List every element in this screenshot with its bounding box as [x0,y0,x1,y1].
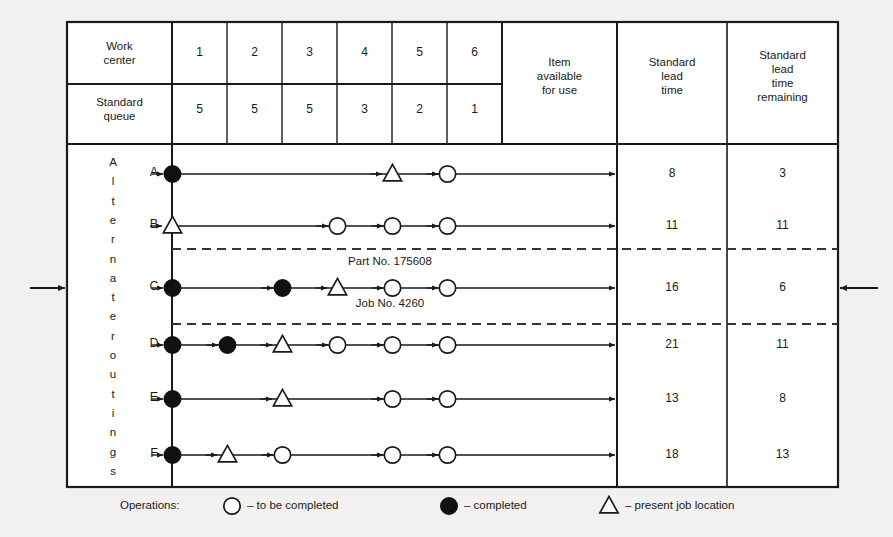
side-label-letter: t [106,291,120,303]
legend-label-2: – present job location [625,499,825,513]
header-work-center-4: 4 [337,46,392,60]
side-label-letter: e [106,310,120,322]
routing-label-A: A [146,166,162,180]
side-label-letter: o [106,349,120,361]
standard-lead-time-C: 16 [617,281,727,295]
standard-lead-time-remaining-D: 11 [727,338,838,352]
side-label-letter: r [106,233,120,245]
header-work-center-label: Workcenter [67,39,172,67]
standard-lead-time-remaining-A: 3 [727,167,838,181]
header-standard-lead-time: Standardleadtime [617,55,727,97]
side-label-letter: r [106,330,120,342]
header-work-center-5: 5 [392,46,447,60]
standard-lead-time-remaining-E: 8 [727,392,838,406]
legend-open-circle-icon [224,498,240,514]
side-label-letter: A [106,156,120,168]
standard-lead-time-remaining-C: 6 [727,281,838,295]
routing-label-F: F [146,447,162,461]
side-label-letter: n [106,426,120,438]
legend-label-0: – to be completed [247,499,447,513]
header-work-center-2: 2 [227,46,282,60]
side-label-letter: n [106,253,120,265]
standard-lead-time-B: 11 [617,219,727,233]
side-label-letter: g [106,446,120,458]
header-standard-queue-3: 5 [282,103,337,117]
header-standard-queue-label: Standardqueue [67,95,172,123]
routing-label-D: D [146,337,162,351]
header-standard-lead-time-remaining: Standardleadtimeremaining [727,48,838,104]
side-label-letter: t [106,388,120,400]
header-item-available: Itemavailablefor use [502,55,617,97]
header-standard-queue-1: 5 [172,103,227,117]
figure-canvas: WorkcenterStandardqueue123456555321Itema… [0,0,893,537]
legend-title: Operations: [120,499,210,513]
side-label-letter: a [106,272,120,284]
routing-label-C: C [146,280,162,294]
header-standard-queue-4: 3 [337,103,392,117]
routing-label-E: E [146,391,162,405]
header-standard-queue-2: 5 [227,103,282,117]
routing-label-B: B [146,218,162,232]
side-label-letter: s [106,465,120,477]
job-number-label: Job No. 4260 [290,297,490,311]
side-label-letter: e [106,214,120,226]
header-standard-queue-6: 1 [447,103,502,117]
header-work-center-3: 3 [282,46,337,60]
standard-lead-time-remaining-F: 13 [727,448,838,462]
standard-lead-time-D: 21 [617,338,727,352]
standard-lead-time-A: 8 [617,167,727,181]
side-label-letter: t [106,195,120,207]
standard-lead-time-F: 18 [617,448,727,462]
side-label-letter: l [106,175,120,187]
header-work-center-1: 1 [172,46,227,60]
part-number-label: Part No. 175608 [290,255,490,269]
header-work-center-6: 6 [447,46,502,60]
standard-lead-time-E: 13 [617,392,727,406]
side-label-letter: i [106,407,120,419]
standard-lead-time-remaining-B: 11 [727,219,838,233]
side-label-letter: u [106,368,120,380]
header-standard-queue-5: 2 [392,103,447,117]
